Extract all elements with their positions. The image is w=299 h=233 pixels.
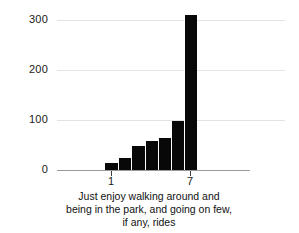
bar-2 <box>118 158 131 170</box>
bar-5 <box>158 138 171 170</box>
xtick-label-7: 7 <box>178 176 202 187</box>
bar-1 <box>105 163 118 170</box>
caption-line-1: Just enjoy walking around and <box>38 190 260 203</box>
bar-chart: 300 200 100 0 1 7 Just enjoy walking aro… <box>0 0 299 233</box>
chart-caption: Just enjoy walking around and being in t… <box>38 190 260 229</box>
caption-line-2: being in the park, and going on few, <box>38 203 260 216</box>
bar-3 <box>131 146 144 170</box>
x-axis-line <box>57 170 250 171</box>
xtick-label-1: 1 <box>99 176 123 187</box>
bar-7 <box>184 15 197 170</box>
caption-line-3: if any, rides <box>38 216 260 229</box>
bar-6 <box>171 121 184 170</box>
bar-4 <box>145 141 158 170</box>
